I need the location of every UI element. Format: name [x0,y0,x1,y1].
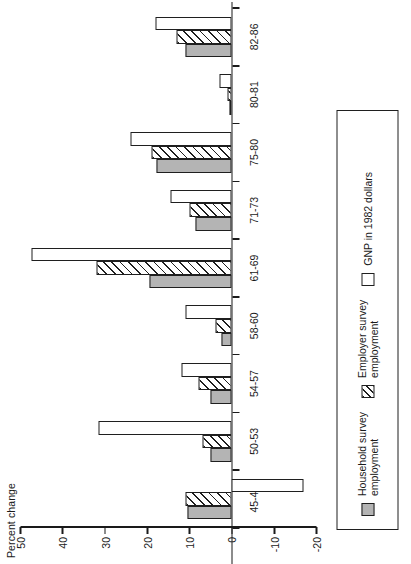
bar [181,363,232,377]
category-tick [232,469,239,471]
value-tick [188,528,190,535]
value-tick [104,528,106,535]
category-label: 61-69 [247,255,259,282]
category-tick [232,238,239,240]
value-axis [20,526,316,528]
category-label: 82-86 [247,23,259,50]
bar [215,319,232,333]
value-tick [19,528,21,535]
category-label: 75-80 [247,139,259,166]
chart-figure: Percent change 50403020100-10-20 45-4850… [0,0,411,564]
legend: Household survey employment Employer sur… [336,110,398,530]
bar [221,333,232,347]
value-tick-label: 40 [56,537,68,549]
value-tick [146,528,148,535]
bar [210,390,231,404]
category-tick [232,181,239,183]
category-label: 80-81 [247,81,259,108]
value-tick [315,528,317,535]
bar [185,305,232,319]
bar [98,421,231,435]
value-tick-label: 10 [183,537,195,549]
bar [227,88,231,102]
bar [176,30,231,44]
category-tick [232,296,239,298]
legend-label-employer: Employer survey employment [355,300,380,378]
legend-item-household: Household survey employment [355,412,380,516]
category-label: 71-73 [247,197,259,224]
value-tick-label: 50 [14,537,26,549]
bar [185,44,232,58]
bar [149,275,231,289]
bar [229,101,231,115]
bar [151,146,231,160]
bar [155,17,231,31]
category-tick [232,7,239,9]
bar [31,248,232,262]
value-tick-label: -10 [268,537,280,552]
value-tick-label: -20 [310,537,322,552]
value-tick [273,528,275,535]
bar [219,74,232,88]
category-tick [232,65,239,67]
bar [156,159,231,173]
legend-item-employer: Employer survey employment [355,300,380,398]
bar [202,435,232,449]
category-tick [232,412,239,414]
legend-swatch-employer-icon [361,385,374,398]
bar [96,261,231,275]
plot-area: Percent change 50403020100-10-20 45-4850… [0,0,411,564]
category-label: 54-57 [247,370,259,397]
bar [187,506,231,520]
category-label: 58-60 [247,312,259,339]
legend-label-gnp: GNP in 1982 dollars [361,172,373,266]
bar [130,132,231,146]
category-tick [232,354,239,356]
category-tick [232,527,239,529]
bar [185,492,232,506]
legend-item-gnp: GNP in 1982 dollars [361,172,374,286]
value-tick-label: 20 [141,537,153,549]
value-tick [61,528,63,535]
bar [210,448,231,462]
category-tick [232,123,239,125]
value-tick-label: 30 [99,537,111,549]
bar [195,217,231,231]
bar [170,190,231,204]
legend-label-household: Household survey employment [355,412,380,496]
bar [189,203,231,217]
bar [231,479,303,493]
legend-swatch-gnp-icon [361,273,374,286]
bar [198,377,232,391]
legend-swatch-household-icon [361,503,374,516]
category-label: 50-53 [247,428,259,455]
